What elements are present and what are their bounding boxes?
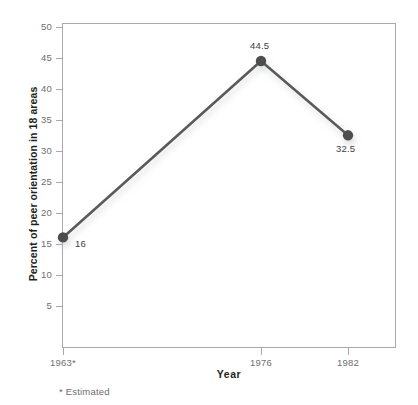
data-point-marker [58,232,68,242]
chart-container: Percent of peer orientation in 18 areas … [0,0,418,405]
series-layer [0,0,418,405]
footnote: * Estimated [59,386,110,398]
data-point-marker [256,56,266,66]
series-line [63,61,348,237]
data-point-label: 44.5 [250,40,269,51]
data-point-label: 16 [75,238,86,249]
data-point-label: 32.5 [336,143,355,154]
data-point-marker [343,130,353,140]
